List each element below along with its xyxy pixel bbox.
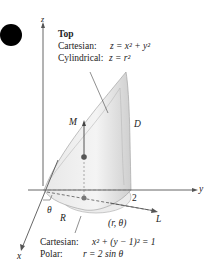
y-axis-arrow-icon: [192, 188, 198, 192]
bottom-caption-cartesian-eq: x² + (y − 1)² = 1: [92, 237, 155, 248]
label-theta: θ: [47, 205, 52, 216]
label-l: L: [156, 214, 161, 225]
ray-l-arrow-icon: [151, 208, 158, 213]
label-two: 2: [132, 193, 137, 204]
x-axis-label: x: [17, 251, 21, 262]
label-d: D: [134, 119, 141, 130]
bottom-caption-polar-eq: r = 2 sin θ: [83, 249, 123, 260]
base-point: [82, 196, 87, 201]
paraboloid-surface: [44, 72, 131, 210]
label-r: R: [60, 213, 66, 224]
top-caption-cylindrical-label: Cylindrical:: [58, 53, 103, 64]
x-axis-arrow-icon: [20, 244, 25, 251]
bottom-caption-cartesian-label: Cartesian:: [40, 237, 79, 248]
top-point: [81, 154, 87, 160]
black-dot-marker: [0, 24, 22, 46]
top-caption-cylindrical-eq: z = r²: [109, 53, 130, 64]
diagram-canvas: [0, 0, 211, 269]
y-axis-label: y: [199, 184, 203, 195]
bottom-leader-line: [75, 216, 81, 233]
z-axis-label: z: [41, 14, 44, 25]
label-m: M: [69, 117, 77, 128]
top-caption-cartesian-label: Cartesian:: [58, 41, 97, 52]
top-caption-cartesian-eq: z = x² + y²: [110, 41, 150, 52]
top-caption-title: Top: [58, 29, 74, 40]
x-axis: [22, 160, 58, 248]
label-point: (r, θ): [108, 218, 126, 229]
bottom-caption-polar-label: Polar:: [40, 249, 63, 260]
